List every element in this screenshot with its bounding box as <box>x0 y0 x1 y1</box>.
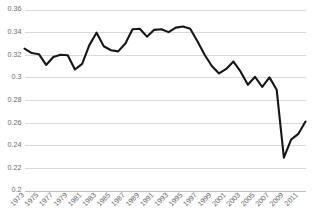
x-tick-label: 2001 <box>210 191 228 209</box>
x-tick-label: 1997 <box>181 191 199 209</box>
gridlines-group <box>25 11 306 192</box>
x-tick-label: 2007 <box>253 191 271 209</box>
x-tick-label: 1981 <box>66 191 84 209</box>
x-tick-label: 1993 <box>152 191 170 209</box>
y-tick-label: 0.28 <box>8 95 22 104</box>
x-tick-label: 2003 <box>224 191 242 209</box>
x-tick-label: 2009 <box>268 191 286 209</box>
y-tick-label: 0.3 <box>12 72 22 81</box>
line-chart: 0.360.340.320.30.280.260.240.220.2 19731… <box>0 0 315 221</box>
y-tick-label: 0.34 <box>8 27 22 36</box>
x-tick-label: 1979 <box>51 191 69 209</box>
x-tick-label: 2005 <box>239 191 257 209</box>
x-tick-label: 1999 <box>196 191 214 209</box>
x-tick-label: 1991 <box>138 191 156 209</box>
x-tick-label: 1987 <box>109 191 127 209</box>
x-tick-label: 1977 <box>37 191 55 209</box>
y-tick-label: 0.22 <box>8 163 22 172</box>
y-tick-label: 0.26 <box>8 118 22 127</box>
x-tick-label: 1985 <box>95 191 113 209</box>
x-tick-label: 1995 <box>167 191 185 209</box>
chart-canvas: 0.360.340.320.30.280.260.240.220.2 19731… <box>0 0 315 221</box>
y-tick-label: 0.36 <box>8 4 22 13</box>
data-series-line <box>25 26 306 157</box>
x-axis-tick-labels: 1973197519771979198119831985198719891991… <box>8 191 299 209</box>
y-tick-label: 0.24 <box>8 140 22 149</box>
x-tick-label: 2011 <box>282 191 299 208</box>
x-tick-label: 1975 <box>23 191 41 209</box>
y-tick-label: 0.32 <box>8 50 22 59</box>
x-tick-label: 1989 <box>124 191 142 209</box>
y-axis-tick-labels: 0.360.340.320.30.280.260.240.220.2 <box>8 4 22 194</box>
x-tick-label: 1983 <box>80 191 98 209</box>
